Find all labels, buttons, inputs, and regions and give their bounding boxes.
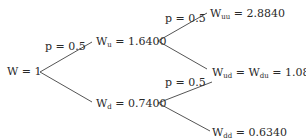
prob-root-up: p = 0.5 bbox=[45, 41, 86, 52]
prob-d-up: p = 0.5 bbox=[165, 77, 206, 88]
node-dd: Wdd = 0.6340 bbox=[212, 127, 287, 139]
node-d: Wd = 0.7400 bbox=[96, 98, 167, 111]
prob-u-up: p = 0.5 bbox=[165, 13, 206, 24]
node-ud: Wud = Wdu = 1.0840 bbox=[212, 67, 306, 80]
node-root: W = 1 bbox=[7, 66, 42, 77]
node-uu: Wuu = 2.8840 bbox=[210, 8, 285, 21]
node-u: Wu = 1.6400 bbox=[96, 36, 167, 49]
edge-root-d bbox=[40, 72, 92, 102]
